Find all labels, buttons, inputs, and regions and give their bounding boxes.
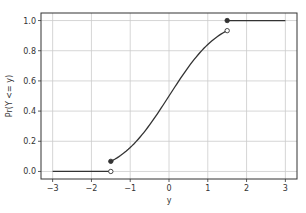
- cdf-chart: −3−2−10123 0.00.20.40.60.81.0 y Pr(Y <= …: [0, 0, 306, 213]
- x-tick-label: −3: [47, 184, 59, 193]
- x-tick-label: 0: [166, 184, 171, 193]
- open-point-marker: [225, 28, 229, 32]
- x-tick-label: −2: [86, 184, 98, 193]
- x-tick-label: 3: [283, 184, 288, 193]
- y-tick-label: 0.4: [23, 107, 36, 116]
- filled-point-marker: [109, 159, 113, 163]
- x-axis-ticks: −3−2−10123: [47, 179, 288, 193]
- y-tick-label: 0.8: [23, 47, 36, 56]
- y-axis-label: Pr(Y <= y): [5, 75, 14, 117]
- y-tick-label: 0.0: [23, 167, 36, 176]
- y-axis-ticks: 0.00.20.40.60.81.0: [23, 17, 41, 177]
- x-tick-label: 1: [205, 184, 210, 193]
- y-tick-label: 0.6: [23, 77, 36, 86]
- x-tick-label: −1: [124, 184, 136, 193]
- x-axis-label: y: [167, 196, 172, 205]
- y-tick-label: 0.2: [23, 137, 36, 146]
- open-point-marker: [109, 169, 113, 173]
- y-tick-label: 1.0: [23, 17, 36, 26]
- filled-point-marker: [225, 18, 229, 22]
- x-tick-label: 2: [244, 184, 249, 193]
